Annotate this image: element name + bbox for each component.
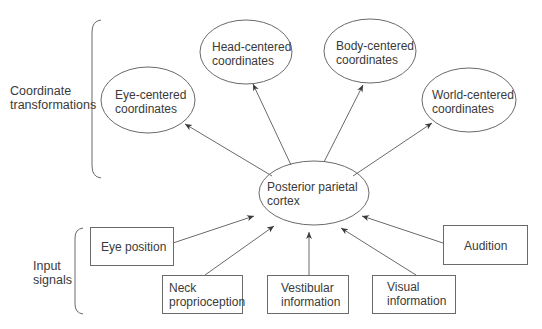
arrow-from-audition — [362, 216, 443, 243]
audition-box: Audition — [443, 225, 528, 265]
input-signals-label: Input signals — [33, 259, 72, 287]
input-bracket — [75, 228, 83, 314]
arrow-to-body-centered — [324, 85, 363, 162]
arrow-from-visual — [341, 228, 416, 275]
posterior-parietal-cortex-node: Posterior parietal cortex — [267, 180, 358, 208]
arrow-to-head-centered — [253, 84, 291, 165]
head-centered-node: Head-centered coordinates — [212, 40, 291, 68]
neck-proprioception-box: Neck proprioception — [162, 275, 243, 314]
arrow-to-world-centered — [353, 123, 432, 176]
eye-position-box: Eye position — [90, 227, 174, 266]
arrow-from-neck — [205, 226, 274, 275]
world-centered-node: World-centered coordinates — [432, 88, 514, 116]
visual-information-box: Visual information — [372, 275, 456, 314]
vestibular-information-box: Vestibular information — [267, 275, 349, 314]
eye-centered-node: Eye-centered coordinates — [115, 88, 186, 116]
arrow-to-eye-centered — [185, 124, 272, 176]
arrow-from-eye-position — [173, 216, 254, 243]
coordinate-transformations-label: Coordinate transformations — [10, 84, 96, 112]
body-centered-node: Body-centered coordinates — [336, 39, 414, 67]
